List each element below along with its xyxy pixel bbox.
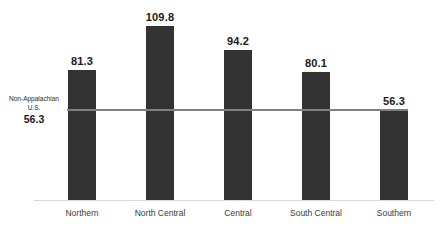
- bar-value-north-central: 109.8: [140, 11, 180, 23]
- bar-value-northern: 81.3: [62, 55, 102, 67]
- reference-line-name-line1: Non-Appalachian: [2, 94, 66, 103]
- bar-value-southern: 56.3: [374, 95, 414, 107]
- category-label-southern: Southern: [359, 208, 429, 218]
- bar-north-central: [146, 26, 174, 200]
- reference-line-label: Non-Appalachian U.S. 56.3: [2, 94, 66, 126]
- bar-value-central: 94.2: [218, 35, 258, 47]
- bar-chart: Non-Appalachian U.S. 56.3 81.3 109.8 94.…: [0, 0, 440, 229]
- plot-area: Non-Appalachian U.S. 56.3 81.3 109.8 94.…: [0, 0, 440, 229]
- x-axis-line: [34, 200, 434, 201]
- category-label-central: Central: [203, 208, 273, 218]
- reference-line-name-line2: U.S.: [2, 103, 66, 112]
- bar-south-central: [302, 72, 330, 200]
- category-label-north-central: North Central: [125, 208, 195, 218]
- category-label-northern: Northern: [47, 208, 117, 218]
- category-label-south-central: South Central: [281, 208, 351, 218]
- bar-central: [224, 50, 252, 200]
- bar-southern: [380, 110, 408, 200]
- bar-northern: [68, 70, 96, 200]
- bar-value-south-central: 80.1: [296, 57, 336, 69]
- reference-line: [67, 109, 408, 111]
- reference-line-value: 56.3: [2, 113, 66, 126]
